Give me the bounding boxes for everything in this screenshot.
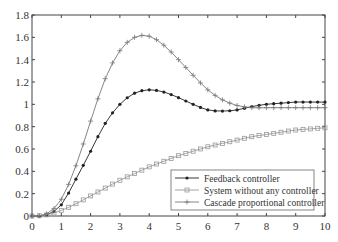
x-tick-label: 6 (205, 220, 211, 232)
line-chart: 012345678910 00.20.40.60.811.21.41.61.8 … (0, 0, 338, 242)
y-tick-label: 1.8 (15, 9, 29, 21)
x-tick-label: 9 (293, 220, 299, 232)
x-tick-label: 10 (320, 220, 332, 232)
x-tick-label: 3 (117, 220, 123, 232)
y-tick-label: 0.6 (15, 143, 29, 155)
x-tick-label: 2 (88, 220, 94, 232)
legend-label: Cascade proportional controller (204, 198, 325, 208)
legend: Feedback controllerSystem without any co… (171, 170, 325, 210)
y-tick-label: 1.4 (15, 54, 29, 66)
y-tick-label: 0.8 (15, 121, 29, 133)
x-tick-label: 4 (146, 220, 152, 232)
y-tick-label: 1.2 (15, 76, 29, 88)
x-tick-label: 7 (234, 220, 240, 232)
y-tick-label: 1.6 (15, 31, 29, 43)
y-tick-label: 0.4 (15, 165, 29, 177)
y-tick-label: 0.2 (15, 188, 29, 200)
x-tick-label: 0 (29, 220, 35, 232)
y-tick-label: 0 (24, 210, 30, 222)
x-tick-label: 8 (264, 220, 270, 232)
y-tick-label: 1 (24, 98, 30, 110)
legend-label: System without any controller (204, 186, 320, 196)
x-tick-label: 5 (176, 220, 182, 232)
legend-label: Feedback controller (204, 174, 281, 184)
x-tick-label: 1 (59, 220, 65, 232)
